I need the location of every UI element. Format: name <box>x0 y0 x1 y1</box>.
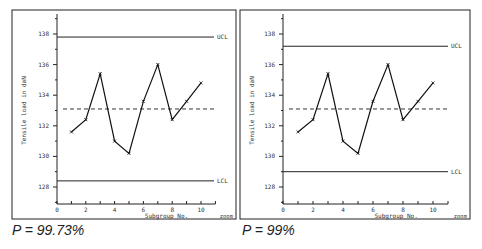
x-tick-label: 2 <box>84 206 88 213</box>
x-tick-label: 0 <box>55 206 59 213</box>
y-tick-label: 136 <box>38 61 49 68</box>
x-axis-label: Subgroup No. <box>145 212 188 220</box>
x-tick-label: 2 <box>311 206 315 213</box>
data-point-marker <box>432 81 435 84</box>
y-axis-label: Tensile load in daN <box>20 76 27 145</box>
caption-right: P = 99% <box>242 222 295 238</box>
y-tick-label: 128 <box>264 183 275 190</box>
y-tick-label: 128 <box>38 183 49 190</box>
y-axis-label: Tensile load in daN <box>248 76 255 145</box>
y-tick-label: 130 <box>264 152 275 159</box>
y-tick-label: 132 <box>38 122 49 129</box>
y-tick-label: 138 <box>264 30 275 37</box>
ucl-label: UCL <box>451 42 462 49</box>
caption-left: P = 99.73% <box>12 222 84 238</box>
x-tick-label: 0 <box>281 206 285 213</box>
data-point-marker <box>70 130 73 133</box>
control-chart-right: 1281301321341361380246810Subgroup No.zoo… <box>240 10 470 220</box>
data-point-marker <box>297 130 300 133</box>
x-tick-label: 4 <box>113 206 117 213</box>
control-chart-left: 1281301321341361380246810Subgroup No.zoo… <box>12 10 236 220</box>
y-tick-label: 130 <box>38 152 49 159</box>
data-point-marker <box>200 81 203 84</box>
corner-label: zoom <box>220 213 234 219</box>
data-point-marker <box>417 100 420 103</box>
data-point-marker <box>185 100 188 103</box>
y-tick-label: 134 <box>264 91 275 98</box>
ucl-label: UCL <box>217 33 228 40</box>
control-charts: 1281301321341361380246810Subgroup No.zoo… <box>0 0 482 249</box>
x-axis-label: Subgroup No. <box>375 212 418 220</box>
x-tick-label: 10 <box>429 206 437 213</box>
y-tick-label: 134 <box>38 91 49 98</box>
y-tick-label: 136 <box>264 61 275 68</box>
lcl-label: LCL <box>451 168 462 175</box>
x-tick-label: 10 <box>197 206 205 213</box>
lcl-label: LCL <box>217 177 228 184</box>
corner-label: zoom <box>454 213 468 219</box>
y-tick-label: 138 <box>38 30 49 37</box>
x-tick-label: 4 <box>341 206 345 213</box>
y-tick-label: 132 <box>264 122 275 129</box>
